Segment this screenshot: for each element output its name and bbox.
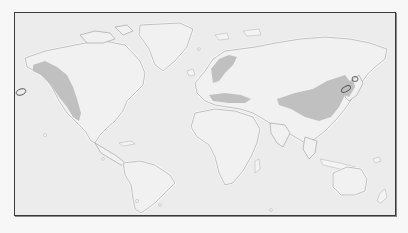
marker-aleutian-islands bbox=[15, 87, 26, 96]
south-america bbox=[123, 161, 175, 213]
north-america bbox=[25, 23, 193, 165]
africa bbox=[191, 109, 260, 185]
world-map-frame bbox=[14, 12, 396, 216]
world-map bbox=[15, 13, 395, 215]
